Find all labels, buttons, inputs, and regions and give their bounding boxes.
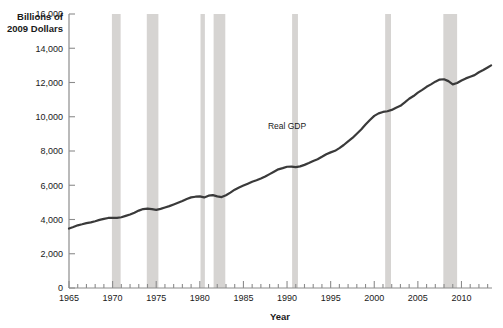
recession-band	[385, 14, 391, 288]
recession-band	[443, 14, 457, 288]
chart-annotations: Real GDP	[268, 121, 307, 131]
y-tick-label: 12,000	[35, 78, 63, 88]
chart-canvas: 02,0004,0006,0008,00010,00012,00014,0001…	[0, 0, 503, 328]
real-gdp-label: Real GDP	[268, 121, 307, 131]
x-tick-label: 1995	[321, 293, 341, 303]
y-tick-label: 4,000	[40, 215, 63, 225]
recession-band	[201, 14, 205, 288]
chart-background	[0, 0, 503, 328]
y-tick-label: 6,000	[40, 181, 63, 191]
y-tick-label: 14,000	[35, 44, 63, 54]
recession-band	[292, 14, 298, 288]
x-tick-label: 2000	[364, 293, 384, 303]
x-tick-label: 1990	[277, 293, 297, 303]
y-tick-label: 10,000	[35, 112, 63, 122]
x-tick-label: 2010	[451, 293, 471, 303]
recession-band	[214, 14, 226, 288]
x-tick-label: 1965	[59, 293, 79, 303]
recession-band	[112, 14, 121, 288]
x-tick-label: 2005	[408, 293, 428, 303]
y-axis-title-line1: Billions of	[17, 11, 64, 22]
real-gdp-chart: 02,0004,0006,0008,00010,00012,00014,0001…	[0, 0, 503, 328]
y-tick-label: 2,000	[40, 249, 63, 259]
y-axis-title-line2: 2009 Dollars	[7, 23, 63, 34]
x-axis-title: Year	[270, 311, 290, 322]
x-tick-label: 1975	[146, 293, 166, 303]
x-tick-label: 1985	[233, 293, 253, 303]
x-tick-label: 1970	[103, 293, 123, 303]
y-tick-label: 0	[58, 283, 63, 293]
recession-band	[147, 14, 159, 288]
y-tick-label: 8,000	[40, 146, 63, 156]
x-tick-label: 1980	[190, 293, 210, 303]
